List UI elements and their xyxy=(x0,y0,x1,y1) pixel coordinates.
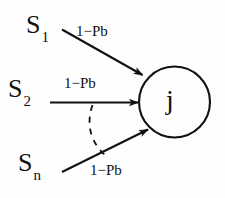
diagram-canvas: S1 S2 Sn 1−Pb 1−Pb 1−Pb j xyxy=(0,0,225,198)
edge-label-s1: 1−Pb xyxy=(76,24,108,39)
source-node-label-s1: S1 xyxy=(26,12,48,42)
ellipsis-dashed-arc xyxy=(90,105,106,156)
source-node-base-s1: S xyxy=(26,10,40,39)
source-node-label-s2: S2 xyxy=(8,76,30,106)
source-node-subscript-sn: n xyxy=(33,167,41,183)
target-node-label: j xyxy=(166,86,174,114)
edge-label-sn: 1−Pb xyxy=(90,163,122,178)
source-node-label-sn: Sn xyxy=(18,150,40,180)
source-node-base-s2: S xyxy=(8,74,22,103)
source-node-subscript-s1: 1 xyxy=(41,29,49,45)
source-node-subscript-s2: 2 xyxy=(23,93,31,109)
target-node-circle xyxy=(139,67,210,138)
edge-label-s2: 1−Pb xyxy=(64,76,96,91)
source-node-base-sn: S xyxy=(18,148,32,177)
